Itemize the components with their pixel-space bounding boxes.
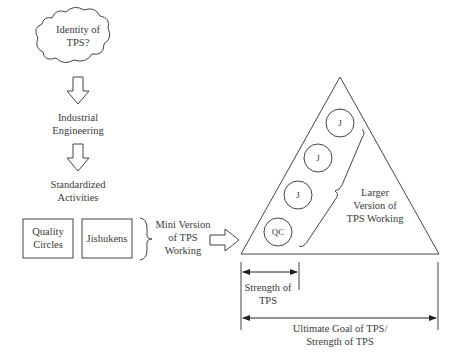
circle-label-j1: J (330, 117, 350, 130)
box-line2: Circles (23, 238, 73, 251)
cloud-label: Identity of TPS? (48, 23, 108, 49)
down-arrow-2 (67, 144, 89, 171)
cloud-label-line2: TPS? (48, 36, 108, 49)
quality-circles-label: Quality Circles (23, 225, 73, 251)
strength-label: Strength of TPS (240, 281, 296, 307)
jishukens-label: Jishukens (82, 232, 132, 245)
mini-line1: Mini Version (150, 218, 216, 231)
mini-line3: Working (150, 244, 216, 257)
ultimate-goal-label: Ultimate Goal of TPS/ Strength of TPS (290, 322, 390, 348)
larger-version-label: Larger Version of TPS Working (340, 186, 410, 225)
mini-line2: of TPS (150, 231, 216, 244)
step-line1: Industrial (38, 111, 118, 124)
step-standardized-activities: Standardized Activities (38, 178, 118, 204)
cloud-label-line1: Identity of (48, 23, 108, 36)
down-arrow-1 (67, 77, 89, 104)
circle-label-j3: J (288, 189, 308, 202)
mini-version-label: Mini Version of TPS Working (150, 218, 216, 257)
step-line2: Activities (38, 191, 118, 204)
circle-label-j2: J (308, 152, 328, 165)
ultimate-line1: Ultimate Goal of TPS/ (290, 322, 390, 335)
step-line2: Engineering (38, 124, 118, 137)
step-line1: Standardized (38, 178, 118, 191)
box-line1: Quality (23, 225, 73, 238)
step-industrial-engineering: Industrial Engineering (38, 111, 118, 137)
circle-label-qc: QC (266, 226, 290, 239)
strength-line2: TPS (240, 294, 296, 307)
larger-line2: Version of (340, 199, 410, 212)
larger-line3: TPS Working (340, 212, 410, 225)
ultimate-line2: Strength of TPS (290, 335, 390, 348)
strength-line1: Strength of (240, 281, 296, 294)
larger-line1: Larger (340, 186, 410, 199)
